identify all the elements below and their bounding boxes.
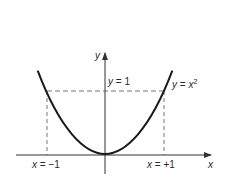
x-minus-1-value: = −1	[37, 159, 60, 170]
x-axis-label-text: x	[208, 159, 213, 170]
y-axis-label-text: y	[95, 50, 100, 61]
x-equals-minus-1-label: x = −1	[32, 160, 60, 170]
curve-eq-exponent: 2	[193, 78, 197, 85]
curve-eq-var: y	[172, 79, 177, 90]
curve-equation-label: y = x2	[172, 78, 197, 90]
x-plus-1-value: = +1	[152, 159, 175, 170]
x-axis-label: x	[208, 160, 213, 170]
parabola-diagram: y x y = 1 y = x2 x = −1 x = +1	[0, 0, 225, 187]
x-equals-plus-1-label: x = +1	[147, 160, 175, 170]
y-axis-label: y	[95, 51, 100, 61]
y-equals-1-value: = 1	[113, 76, 130, 87]
y-equals-1-label: y = 1	[108, 77, 130, 87]
